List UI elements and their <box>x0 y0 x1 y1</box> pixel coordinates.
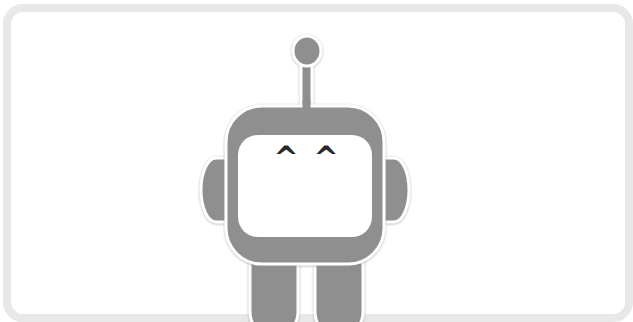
robot-legs <box>250 262 363 322</box>
left-eye-icon: ^ <box>273 140 298 175</box>
robot-antenna <box>293 36 321 108</box>
left-leg <box>250 262 298 322</box>
robot-face-screen <box>238 135 372 237</box>
right-leg <box>315 262 363 322</box>
antenna-stem-cover <box>303 100 311 109</box>
right-eye-icon: ^ <box>313 140 338 175</box>
antenna-ball-icon <box>293 36 321 66</box>
